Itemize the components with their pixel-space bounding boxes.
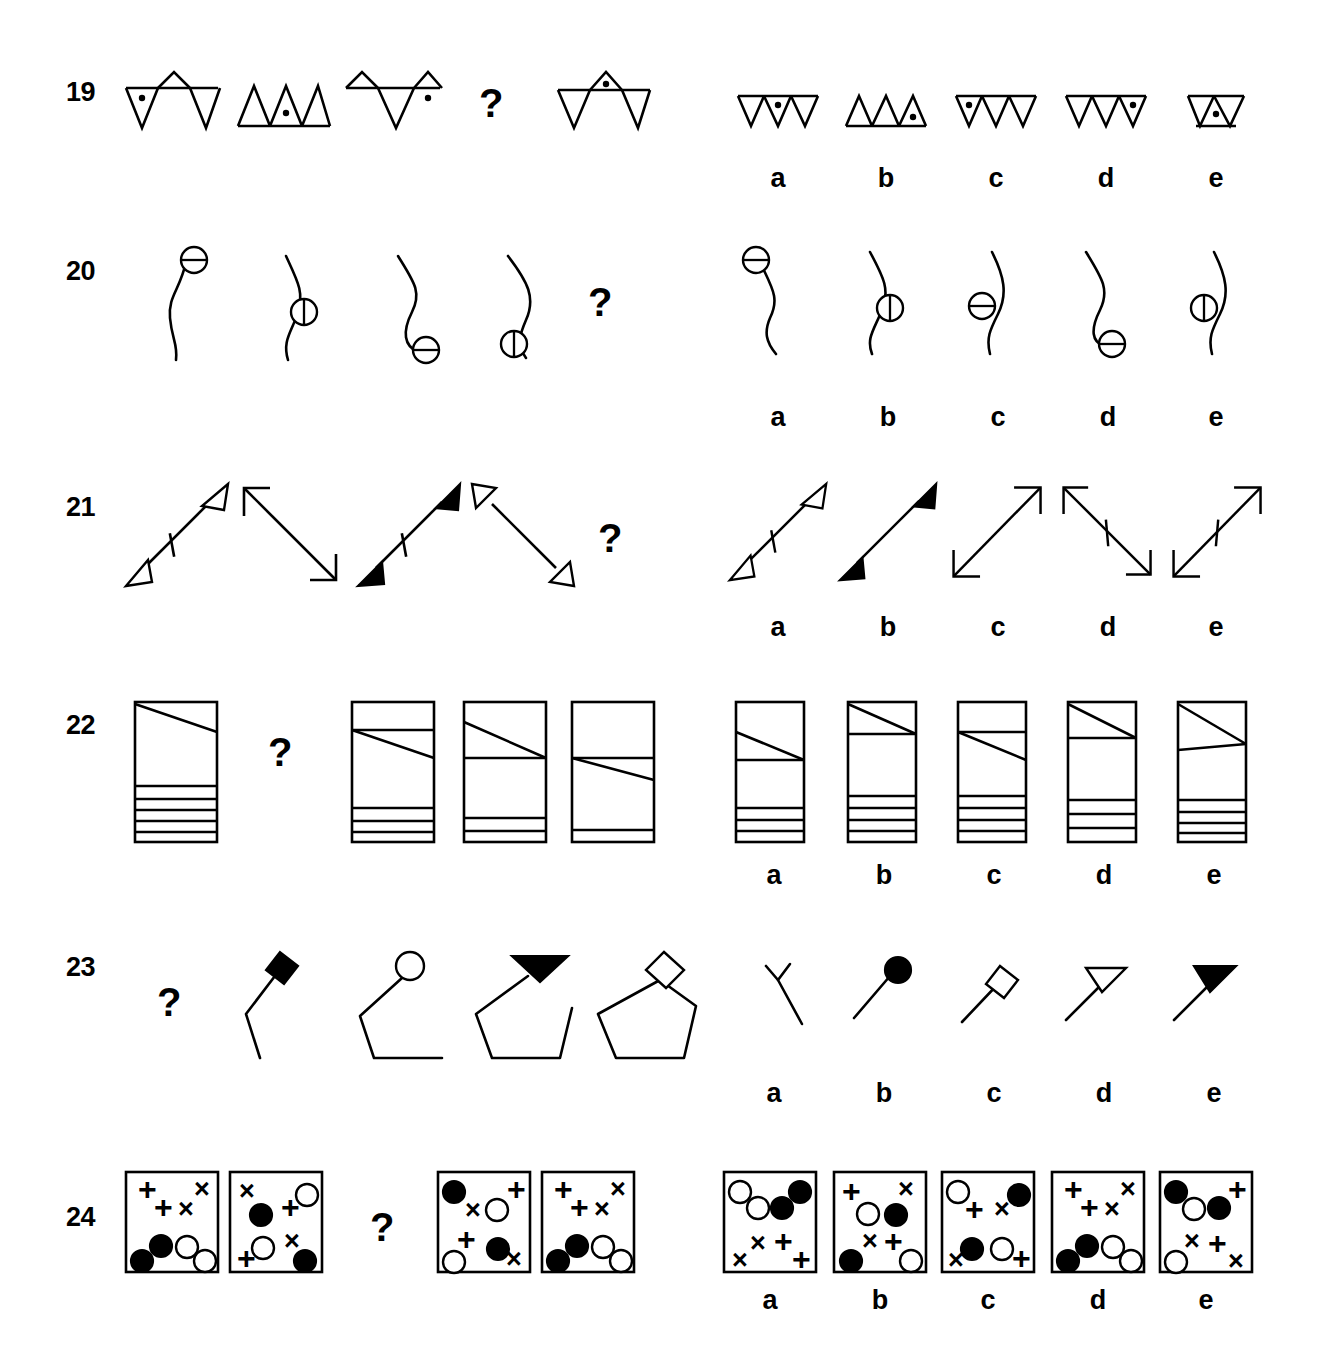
svg-text:×: × (1228, 1246, 1244, 1276)
item19-stem-1 (124, 70, 220, 132)
item20-option-e[interactable] (1182, 246, 1252, 358)
item22-option-e[interactable] (1176, 700, 1248, 844)
svg-text:×: × (862, 1226, 878, 1256)
item21-label-c: c (978, 612, 1018, 643)
item23-stem-3 (340, 944, 460, 1062)
item21-question-mark: ? (598, 518, 622, 558)
item19-stem1-dot (139, 95, 145, 101)
item22-stem-4 (462, 700, 548, 844)
item23-label-b: b (864, 1078, 904, 1109)
item23-question-mark: ? (157, 982, 181, 1022)
item24-label-c: c (968, 1285, 1008, 1316)
item20-label-b: b (868, 402, 908, 433)
item21-option-b[interactable] (836, 480, 940, 584)
svg-text:×: × (178, 1194, 194, 1224)
item20-stem-3 (382, 248, 452, 363)
test-item-19: 19 (0, 0, 1318, 220)
svg-text:×: × (948, 1245, 964, 1275)
svg-text:×: × (732, 1245, 748, 1275)
item20-stem-2 (268, 248, 338, 363)
item21-stem-4 (468, 480, 578, 590)
svg-text:×: × (594, 1194, 610, 1224)
item23-stem-2 (232, 944, 322, 1062)
svg-text:+: + (792, 1241, 811, 1277)
item22-option-c[interactable] (956, 700, 1028, 844)
item24-label-d: d (1078, 1285, 1118, 1316)
item20-option-d[interactable] (1070, 246, 1140, 358)
item22-option-d[interactable] (1066, 700, 1138, 844)
item20-label-e: e (1196, 402, 1236, 433)
item22-label-e: e (1194, 860, 1234, 891)
item19-label-c: c (976, 163, 1016, 194)
item20-option-c[interactable] (962, 246, 1032, 358)
item22-stem-1 (133, 700, 219, 844)
svg-text:+: + (965, 1191, 984, 1227)
item21-label-d: d (1088, 612, 1128, 643)
item23-stem-4 (462, 944, 582, 1062)
item24-label-e: e (1186, 1285, 1226, 1316)
test-item-23: 23 ? (0, 930, 1318, 1160)
svg-text:×: × (506, 1244, 522, 1274)
item21-label-a: a (758, 612, 798, 643)
item22-label-a: a (754, 860, 794, 891)
svg-text:+: + (507, 1171, 526, 1207)
item23-option-c[interactable] (956, 958, 1032, 1038)
item21-option-c[interactable] (946, 480, 1050, 584)
item20-question-mark: ? (588, 282, 612, 322)
item24-option-e[interactable]: + × + × (1158, 1170, 1254, 1274)
item21-option-e[interactable] (1166, 480, 1270, 584)
item19-label-d: d (1086, 163, 1126, 194)
item19-label-b: b (866, 163, 906, 194)
svg-text:×: × (898, 1174, 914, 1204)
item23-option-e[interactable] (1170, 958, 1252, 1038)
item24-option-d[interactable]: + + × × (1050, 1170, 1146, 1274)
item19-option-c[interactable] (954, 92, 1038, 130)
item20-label-d: d (1088, 402, 1128, 433)
svg-text:×: × (284, 1226, 300, 1256)
item22-label-c: c (974, 860, 1014, 891)
item22-label-d: d (1084, 860, 1124, 891)
item22-option-b[interactable] (846, 700, 918, 844)
svg-text:×: × (1104, 1194, 1120, 1224)
item24-option-c[interactable]: + × × + (940, 1170, 1036, 1274)
item24-label-b: b (860, 1285, 900, 1316)
item21-label-b: b (868, 612, 908, 643)
svg-text:+: + (1012, 1240, 1031, 1276)
item21-option-a[interactable] (726, 480, 830, 584)
item19-question-mark: ? (479, 83, 503, 123)
item24-option-b[interactable]: + × × + (832, 1170, 928, 1274)
item21-stem-2 (236, 480, 346, 590)
item20-label-a: a (758, 402, 798, 433)
item23-option-b[interactable] (848, 958, 924, 1038)
item19-option-b[interactable] (844, 92, 928, 130)
item24-question-mark: ? (370, 1207, 394, 1247)
test-item-21: 21 (0, 440, 1318, 680)
item24-stem-5: + + × × (540, 1170, 636, 1274)
item20-option-a[interactable] (738, 246, 808, 358)
item-number-20: 20 (66, 256, 95, 287)
item19-stem-5 (556, 70, 652, 132)
item19-option-a[interactable] (736, 92, 820, 130)
item19-option-d[interactable] (1064, 92, 1148, 130)
test-sheet: 19 (0, 0, 1318, 1370)
item23-label-e: e (1194, 1078, 1234, 1109)
item-number-23: 23 (66, 952, 95, 983)
svg-text:+: + (1208, 1225, 1227, 1261)
item24-option-a[interactable]: × × + + (722, 1170, 818, 1274)
item23-label-d: d (1084, 1078, 1124, 1109)
svg-text:+: + (884, 1223, 903, 1259)
item20-option-b[interactable] (852, 246, 922, 358)
item23-stem-5 (586, 944, 706, 1062)
item23-option-a[interactable] (744, 958, 820, 1038)
item23-option-d[interactable] (1062, 958, 1144, 1038)
item22-stem-5 (570, 700, 656, 844)
item23-label-a: a (754, 1078, 794, 1109)
item19-option-e[interactable] (1184, 92, 1248, 130)
svg-text:+: + (1080, 1189, 1099, 1225)
item24-stem-1: + + × × (124, 1170, 220, 1274)
item19-label-e: e (1196, 163, 1236, 194)
test-item-22: 22 ? (0, 680, 1318, 930)
svg-text:×: × (239, 1176, 255, 1206)
item21-option-d[interactable] (1056, 480, 1160, 584)
item22-option-a[interactable] (734, 700, 806, 844)
